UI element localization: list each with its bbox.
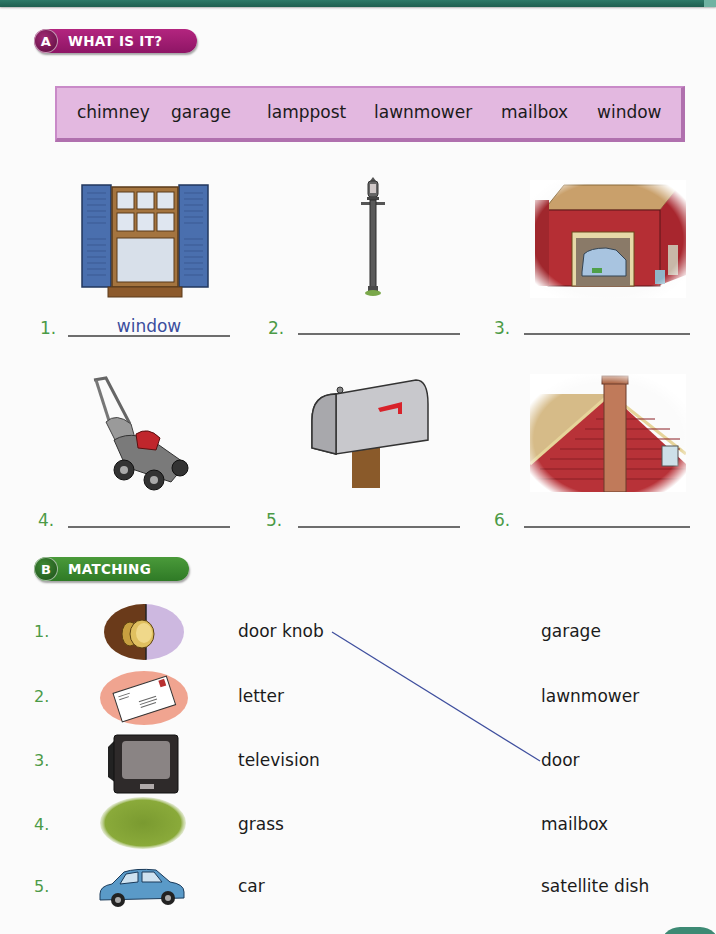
match-option[interactable]: satellite dish <box>541 876 649 896</box>
match-option[interactable]: mailbox <box>541 814 608 834</box>
match-option[interactable]: door <box>541 750 580 770</box>
match-line[interactable] <box>0 0 716 934</box>
match-option[interactable]: garage <box>541 621 601 641</box>
match-option[interactable]: lawnmower <box>541 686 639 706</box>
